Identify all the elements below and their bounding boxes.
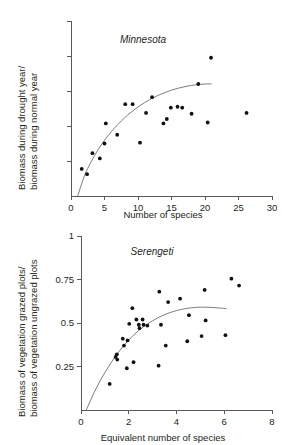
serengeti-data-point	[115, 358, 119, 362]
minnesota-data-point	[196, 82, 200, 86]
serengeti-plot-svg: Biomass of vegetation grazed plots/ biom…	[0, 222, 285, 445]
serengeti-data-point	[126, 339, 130, 343]
minnesota-data-point	[91, 151, 95, 155]
minnesota-data-point	[103, 142, 107, 146]
minnesota-data-point	[150, 95, 154, 99]
minnesota-x-tick-label: 0	[68, 202, 73, 213]
serengeti-y-tick-label: 0.5	[61, 317, 74, 328]
minnesota-data-point	[131, 102, 135, 106]
serengeti-data-point	[134, 318, 138, 322]
minnesota-data-point	[165, 117, 169, 121]
serengeti-y-axis-title-line2: biomass of vegetation ungrazed plots	[28, 259, 39, 417]
serengeti-data-point	[230, 277, 234, 281]
serengeti-data-point	[157, 364, 161, 368]
serengeti-x-tick-label: 4	[174, 416, 179, 427]
minnesota-data-point	[169, 106, 173, 110]
serengeti-y-tick-label: 0.25	[56, 361, 75, 372]
chart-panel-serengeti: Biomass of vegetation grazed plots/ biom…	[0, 222, 285, 445]
chart-panel-minnesota: Biomass during drought year/ biomass dur…	[0, 0, 285, 222]
minnesota-data-point	[190, 112, 194, 116]
serengeti-data-point	[132, 360, 136, 364]
serengeti-x-tick-label: 2	[126, 416, 131, 427]
minnesota-x-tick-label: 30	[267, 202, 278, 213]
serengeti-data-point	[122, 344, 126, 348]
serengeti-y-tick-label: 1	[69, 230, 74, 241]
serengeti-axes	[77, 236, 272, 414]
serengeti-x-tick-label: 8	[269, 416, 274, 427]
minnesota-x-tick-label: 25	[233, 202, 244, 213]
figure-container: Biomass during drought year/ biomass dur…	[0, 0, 285, 445]
minnesota-data-point	[176, 105, 180, 109]
minnesota-data-points	[80, 56, 249, 176]
serengeti-data-point	[187, 313, 191, 317]
serengeti-data-point	[157, 290, 161, 294]
serengeti-data-point	[137, 323, 141, 327]
minnesota-y-axis-title-line2: biomass during normal year	[28, 73, 39, 190]
serengeti-data-point	[185, 339, 189, 343]
serengeti-data-point	[159, 323, 163, 327]
minnesota-data-point	[162, 121, 166, 125]
serengeti-data-point	[141, 318, 145, 322]
serengeti-fit-curve	[86, 307, 226, 410]
serengeti-data-point	[115, 352, 119, 356]
serengeti-tick-labels: 024680.250.50.751	[56, 230, 275, 427]
serengeti-data-point	[166, 300, 170, 304]
minnesota-data-point	[85, 172, 89, 176]
serengeti-data-point	[164, 344, 168, 348]
serengeti-data-point	[237, 284, 241, 288]
serengeti-panel-title: Serengeti	[131, 246, 175, 257]
serengeti-y-axis-title-line1: Biomass of vegetation grazed plots/	[16, 266, 27, 417]
minnesota-y-axis-title: Biomass during drought year/ biomass dur…	[16, 66, 39, 190]
minnesota-data-point	[80, 167, 84, 171]
minnesota-x-tick-label: 5	[102, 202, 107, 213]
serengeti-data-point	[200, 334, 204, 338]
serengeti-data-point	[121, 337, 125, 341]
minnesota-x-axis-title: Number of species	[123, 209, 202, 220]
serengeti-data-points	[108, 277, 241, 386]
serengeti-data-point	[142, 323, 146, 327]
serengeti-data-point	[203, 288, 207, 292]
minnesota-data-point	[144, 111, 148, 115]
minnesota-data-point	[115, 133, 119, 137]
minnesota-data-point	[104, 121, 108, 125]
serengeti-data-point	[130, 306, 134, 310]
minnesota-y-axis-title-line1: Biomass during drought year/	[16, 66, 27, 190]
serengeti-x-tick-label: 0	[78, 416, 83, 427]
serengeti-data-point	[125, 366, 129, 370]
serengeti-data-point	[204, 318, 208, 322]
serengeti-y-tick-label: 0.75	[56, 274, 75, 285]
minnesota-data-point	[206, 121, 210, 125]
serengeti-data-point	[145, 324, 149, 328]
serengeti-y-axis-title: Biomass of vegetation grazed plots/ biom…	[16, 259, 39, 417]
serengeti-data-point	[108, 382, 112, 386]
minnesota-panel-title: Minnesota	[120, 34, 167, 45]
minnesota-data-point	[123, 102, 127, 106]
minnesota-data-point	[209, 56, 213, 60]
minnesota-fit-curve	[78, 84, 212, 196]
serengeti-data-point	[138, 326, 142, 330]
minnesota-data-point	[138, 141, 142, 145]
serengeti-data-point	[224, 333, 228, 337]
minnesota-data-point	[180, 106, 184, 110]
minnesota-axes	[67, 21, 272, 200]
minnesota-data-point	[98, 156, 102, 160]
serengeti-x-axis-title: Equivalent number of species	[101, 432, 226, 443]
minnesota-data-point	[245, 111, 249, 115]
minnesota-plot-svg: Biomass during drought year/ biomass dur…	[0, 0, 285, 222]
serengeti-x-tick-label: 6	[222, 416, 227, 427]
serengeti-data-point	[178, 297, 182, 301]
serengeti-data-point	[127, 322, 131, 326]
